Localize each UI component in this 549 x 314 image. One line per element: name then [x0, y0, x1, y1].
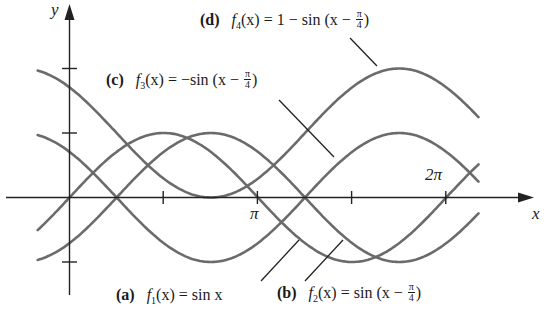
x-tick-label-pi: π [250, 204, 259, 224]
label-d-close: ) [364, 11, 369, 28]
label-c-tag: (c) [106, 71, 124, 88]
x-axis-arrow-icon [518, 193, 534, 203]
label-c-close: ) [252, 71, 257, 88]
label-a-arg: (x) [156, 286, 175, 303]
x-tick-label-2pi: 2π [425, 165, 442, 185]
label-d-eq: = [264, 11, 273, 28]
label-b-eq: = [341, 284, 350, 301]
label-c-arg: (x) [145, 71, 164, 88]
y-axis-arrow-icon [65, 4, 75, 20]
label-b-arg: (x) [318, 284, 337, 301]
label-b-rhs: sin (x − [354, 284, 403, 301]
label-c: (c) f3(x) = −sin (x − π4) [106, 71, 257, 92]
graph-canvas [0, 0, 549, 314]
leader-line-d [350, 38, 377, 66]
label-b: (b) f2(x) = sin (x − π4) [277, 284, 421, 305]
leader-line-c [279, 100, 334, 157]
x-axis-label: x [532, 204, 540, 224]
label-a-rhs: sin x [192, 286, 223, 303]
label-d-tag: (d) [200, 11, 220, 28]
label-b-tag: (b) [277, 284, 297, 301]
label-c-eq: = [168, 71, 177, 88]
label-b-fraction: π4 [408, 282, 415, 303]
label-d-fraction: π4 [356, 9, 363, 30]
label-c-rhs: −sin (x − [181, 71, 239, 88]
label-a-tag: (a) [116, 286, 135, 303]
curves-group [38, 69, 479, 263]
label-a: (a) f1(x) = sin x [116, 287, 222, 306]
label-c-fraction: π4 [244, 69, 251, 90]
label-d-arg: (x) [241, 11, 260, 28]
axes [6, 4, 534, 295]
y-axis-label: y [51, 0, 59, 20]
label-b-close: ) [416, 284, 421, 301]
leader-line-a [261, 240, 299, 281]
label-d: (d) f4(x) = 1 − sin (x − π4) [200, 11, 369, 32]
label-d-rhs: 1 − sin (x − [277, 11, 351, 28]
curve-d-one-minus-shifted-sin [38, 69, 479, 198]
label-a-eq: = [179, 286, 188, 303]
